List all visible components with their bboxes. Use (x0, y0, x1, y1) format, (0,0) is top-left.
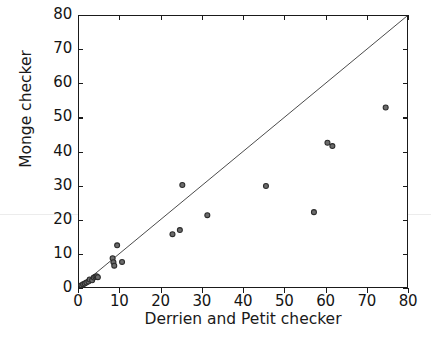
plot-area (78, 15, 408, 288)
y-tick-mark-right (403, 254, 408, 255)
identity-line (79, 16, 407, 287)
data-point (325, 140, 330, 145)
y-tick-mark (78, 220, 83, 221)
y-tick-mark (78, 15, 83, 16)
y-tick-mark-right (403, 152, 408, 153)
x-tick-label: 10 (99, 292, 139, 310)
y-axis-label: Monge checker (17, 29, 35, 189)
y-tick-mark-right (403, 15, 408, 16)
x-tick-mark-top (408, 15, 409, 20)
data-point (383, 105, 388, 110)
y-tick-label: 0 (28, 278, 72, 296)
x-tick-label: 60 (306, 292, 346, 310)
y-tick-mark-right (403, 288, 408, 289)
identity-reference-line (79, 16, 407, 287)
x-tick-mark-top (161, 15, 162, 20)
y-tick-mark-right (403, 220, 408, 221)
x-tick-mark-top (202, 15, 203, 20)
x-tick-label: 30 (182, 292, 222, 310)
y-tick-mark-right (403, 49, 408, 50)
x-tick-mark-top (119, 15, 120, 20)
x-tick-mark-top (326, 15, 327, 20)
y-tick-label: 20 (28, 210, 72, 228)
y-tick-mark (78, 117, 83, 118)
x-tick-label: 20 (141, 292, 181, 310)
data-point (263, 184, 268, 189)
data-point (180, 183, 185, 188)
data-point (311, 210, 316, 215)
y-tick-label: 10 (28, 244, 72, 262)
x-tick-label: 40 (223, 292, 263, 310)
plot-canvas (79, 16, 407, 287)
x-tick-mark-top (367, 15, 368, 20)
data-point (205, 213, 210, 218)
data-point (170, 232, 175, 237)
y-tick-mark (78, 49, 83, 50)
y-tick-mark (78, 83, 83, 84)
data-point (330, 144, 335, 149)
scatter-plot-figure: 01020304050607080 01020304050607080 Derr… (0, 0, 431, 338)
y-tick-mark (78, 288, 83, 289)
x-tick-label: 80 (388, 292, 428, 310)
data-point (177, 228, 182, 233)
y-tick-mark (78, 152, 83, 153)
y-tick-mark (78, 254, 83, 255)
y-tick-mark (78, 186, 83, 187)
data-points-group (79, 105, 388, 288)
data-point (95, 275, 100, 280)
x-axis-label: Derrien and Petit checker (78, 310, 408, 328)
y-tick-mark-right (403, 83, 408, 84)
x-tick-label: 50 (264, 292, 304, 310)
y-tick-label: 80 (28, 5, 72, 23)
data-point (120, 259, 125, 264)
data-point (115, 243, 120, 248)
x-tick-mark-top (284, 15, 285, 20)
y-tick-mark-right (403, 186, 408, 187)
y-tick-mark-right (403, 117, 408, 118)
data-point (112, 263, 117, 268)
x-tick-mark-top (243, 15, 244, 20)
x-tick-label: 70 (347, 292, 387, 310)
